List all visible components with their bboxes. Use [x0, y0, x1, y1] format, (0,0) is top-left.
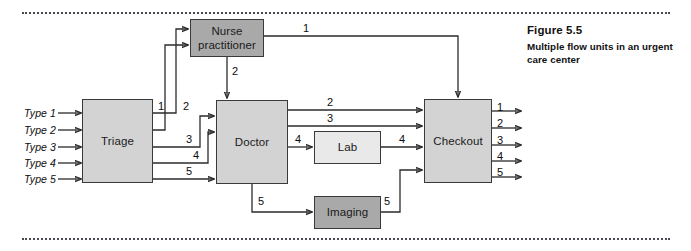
- input-label-type-4: Type 4: [10, 157, 56, 169]
- node-nurse-practitioner[interactable]: Nurse practitioner: [190, 19, 264, 57]
- top-dotted-rule: [22, 12, 670, 14]
- output-label-2: 2: [497, 118, 503, 129]
- node-nurse-practitioner-label: Nurse practitioner: [198, 24, 256, 52]
- node-doctor[interactable]: Doctor: [216, 100, 288, 184]
- edge-label-imaging-checkout-5: 5: [384, 196, 390, 207]
- node-doctor-label: Doctor: [235, 135, 269, 149]
- edge-label-lab-checkout-4: 4: [399, 134, 405, 145]
- node-imaging-label: Imaging: [327, 205, 369, 219]
- edge-label-doctor-imaging-5: 5: [258, 196, 264, 207]
- figure-caption: Figure 5.5 Multiple flow units in an urg…: [527, 24, 677, 66]
- edge-label-doctor-checkout-2: 2: [327, 97, 333, 108]
- output-label-4: 4: [497, 151, 503, 162]
- output-label-5: 5: [497, 167, 503, 178]
- node-nurse-practitioner-label-line2: practitioner: [198, 39, 256, 51]
- output-label-1: 1: [497, 102, 503, 113]
- edge-label-triage-doctor-5: 5: [186, 166, 192, 177]
- edge-label-doctor-lab-4: 4: [295, 134, 301, 145]
- edge-label-nurse-checkout-1: 1: [303, 23, 309, 34]
- input-label-type-3: Type 3: [10, 141, 56, 153]
- edge-label-triage-nurse-1: 1: [158, 101, 164, 112]
- edge-label-triage-doctor-3: 3: [186, 134, 192, 145]
- edge-label-triage-nurse-2: 2: [183, 101, 189, 112]
- edge-label-doctor-checkout-3: 3: [327, 113, 333, 124]
- node-triage-label: Triage: [101, 134, 134, 148]
- node-checkout[interactable]: Checkout: [424, 99, 492, 183]
- input-label-type-1: Type 1: [10, 107, 56, 119]
- output-label-3: 3: [497, 135, 503, 146]
- bottom-dotted-rule: [22, 238, 670, 240]
- node-lab[interactable]: Lab: [314, 131, 381, 164]
- input-label-type-2: Type 2: [10, 124, 56, 136]
- figure-container: Nurse practitioner Triage Doctor Lab Che…: [0, 0, 691, 251]
- edge-label-triage-doctor-4: 4: [193, 150, 199, 161]
- node-imaging[interactable]: Imaging: [314, 196, 381, 229]
- node-checkout-label: Checkout: [433, 134, 482, 148]
- input-label-type-5: Type 5: [10, 173, 56, 185]
- node-triage[interactable]: Triage: [82, 99, 153, 183]
- node-lab-label: Lab: [338, 140, 358, 154]
- node-nurse-practitioner-label-line1: Nurse: [211, 25, 242, 37]
- figure-caption-text: Multiple flow units in an urgent care ce…: [527, 40, 677, 66]
- edge-label-nurse-doctor-2: 2: [232, 66, 238, 77]
- figure-caption-number: Figure 5.5: [527, 24, 677, 36]
